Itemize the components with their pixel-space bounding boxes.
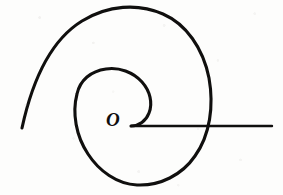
spiral-figure: O [0,0,283,195]
origin-point-label: O [106,110,120,129]
spiral-diagram-canvas [0,0,283,195]
spiral-curve [22,7,211,185]
ink-strokes [22,7,272,185]
